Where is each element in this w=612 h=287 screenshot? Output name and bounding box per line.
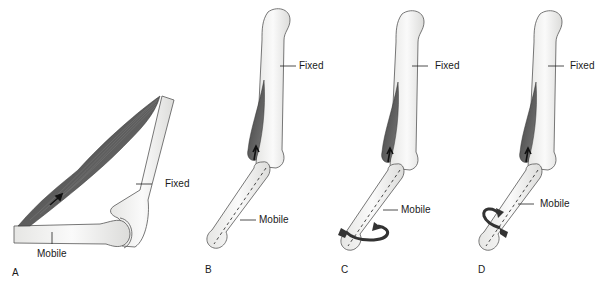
- panel-letter-d: D: [478, 265, 485, 275]
- fixed-bone-d: [528, 11, 562, 170]
- mobile-bone-c: [341, 164, 404, 251]
- label-fixed-b: Fixed: [299, 61, 323, 71]
- label-mobile-b: Mobile: [259, 215, 288, 225]
- fixed-bone-b: [256, 9, 290, 168]
- panel-letter-b: B: [205, 265, 212, 275]
- mobile-bone-b: [207, 162, 270, 249]
- panel-letter-a: A: [12, 268, 19, 278]
- panel-d: [479, 11, 564, 251]
- label-mobile-c: Mobile: [401, 205, 430, 215]
- label-mobile-d: Mobile: [540, 199, 569, 209]
- fixed-bone-c: [390, 11, 424, 170]
- label-fixed-c: Fixed: [435, 61, 459, 71]
- label-fixed-d: Fixed: [570, 61, 594, 71]
- mobile-bone-d: [479, 164, 542, 251]
- panel-b: [207, 9, 296, 249]
- panel-a: [14, 96, 174, 248]
- label-mobile-a: Mobile: [37, 249, 66, 259]
- anatomy-figure: [0, 0, 612, 287]
- panel-letter-c: C: [341, 265, 348, 275]
- label-fixed-a: Fixed: [165, 179, 189, 189]
